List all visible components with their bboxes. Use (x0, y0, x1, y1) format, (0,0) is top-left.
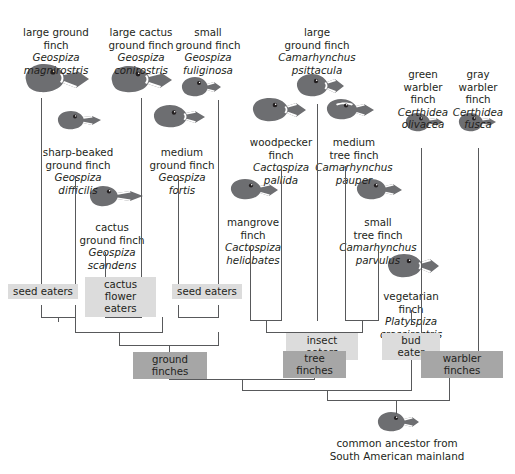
taxon-label-fuliginosa: small ground finch Geospiza fuliginosa (165, 14, 251, 88)
taxon-label-fusca: gray warbler finch Certhidea fusca (448, 56, 508, 143)
bird-icon-common-ancestor (374, 411, 420, 435)
branch-fuliginosa (218, 100, 219, 288)
stem-ground-inner-1a (75, 317, 76, 333)
common-ancestor-label: common ancestor from South American main… (312, 437, 482, 463)
stem-tree-inner-2 (362, 320, 363, 332)
branch-psittacula (317, 104, 318, 321)
phylogenetic-tree-figure: large ground finch Geospiza magnirostris… (0, 0, 515, 474)
branch-olivacea (421, 148, 422, 352)
branch-magnirostris (41, 98, 42, 288)
stem-seed-eaters-left (58, 317, 59, 322)
category-box-tree-finches: tree finches (283, 351, 346, 378)
stem-ground-inner-2b (218, 332, 219, 346)
branch-pauper (345, 166, 346, 321)
category-box-seed-eaters-left: seed eaters (8, 284, 78, 299)
branch-parvulus (378, 246, 379, 321)
stem-ground-inner-1b (162, 317, 163, 333)
taxon-common-name: gray warbler finch (459, 68, 498, 105)
bird-icon-difficilis (54, 110, 102, 132)
branch-crassirostris (411, 310, 412, 324)
bird-icon-pallida (249, 96, 307, 124)
taxon-common-name: small tree finch (353, 216, 402, 240)
taxon-label-scandens: cactus ground finch Geospiza scandens (68, 209, 156, 283)
stem-root (396, 400, 397, 414)
taxon-common-name: sharp-beaked ground finch (43, 146, 113, 170)
taxon-label-difficilis: sharp-beaked ground finch Geospiza diffi… (28, 134, 128, 208)
branch-fortis (178, 176, 179, 288)
branch-pallida (281, 166, 282, 321)
node-seed-eaters-right (178, 317, 219, 318)
branch-seed-eaters-left (41, 305, 42, 318)
category-box-warbler-finches: warbler finches (421, 351, 503, 378)
branch-conirostris (141, 98, 142, 288)
taxon-common-name: medium ground finch (150, 146, 215, 170)
taxon-scientific-name: Geospiza fuliginosa (165, 51, 251, 76)
taxon-scientific-name: Camarhynchus psittacula (262, 51, 372, 76)
stem-ground-inner-2a (119, 332, 120, 346)
taxon-scientific-name: Geospiza fortis (140, 171, 224, 196)
node-cactus-flower-eaters (105, 317, 142, 318)
bird-icon-fortis (150, 104, 206, 130)
taxon-label-magnirostris: large ground finch Geospiza magnirostris (8, 14, 104, 88)
taxon-scientific-name: Geospiza magnirostris (8, 51, 104, 76)
branch-fusca (478, 148, 479, 352)
branch-fuliginosa-lower (218, 305, 219, 318)
branch-difficilis (75, 176, 76, 288)
taxon-common-name: woodpecker finch (250, 136, 312, 160)
taxon-label-pauper: medium tree finch Camarhynchus pauper (308, 124, 400, 198)
taxon-common-name: small ground finch (176, 26, 241, 50)
branch-fortis-lower (178, 305, 179, 318)
taxon-common-name: large ground finch (23, 26, 89, 50)
bird-icon-pauper (323, 98, 375, 122)
category-box-ground-finches: ground finches (133, 352, 207, 379)
category-box-seed-eaters-right: seed eaters (172, 284, 242, 299)
stem-tree-inner-1 (266, 320, 267, 332)
taxon-common-name: large cactus ground finch (109, 26, 174, 50)
taxon-scientific-name: Geospiza difficilis (28, 171, 128, 196)
taxon-label-psittacula: large ground finch Camarhynchus psittacu… (262, 14, 372, 88)
taxon-scientific-name: Certhidea fusca (448, 106, 508, 131)
taxon-scientific-name: Certhidea olivacea (393, 106, 453, 131)
taxon-common-name: large ground finch (285, 26, 350, 50)
node-root (327, 400, 450, 401)
branch-heliobates (250, 246, 251, 321)
taxon-label-fortis: medium ground finch Geospiza fortis (140, 134, 224, 208)
taxon-common-name: green warbler finch (404, 68, 443, 105)
taxon-common-name: cactus ground finch (80, 221, 145, 245)
taxon-label-olivacea: green warbler finch Certhidea olivacea (393, 56, 453, 143)
category-box-cactus-flower-eaters: cactus flower eaters (85, 277, 156, 317)
taxon-common-name: medium tree finch (329, 136, 378, 160)
taxon-common-name: mangrove finch (227, 216, 279, 240)
taxon-scientific-name: Geospiza scandens (68, 246, 156, 271)
taxon-scientific-name: Camarhynchus pauper (308, 161, 400, 186)
